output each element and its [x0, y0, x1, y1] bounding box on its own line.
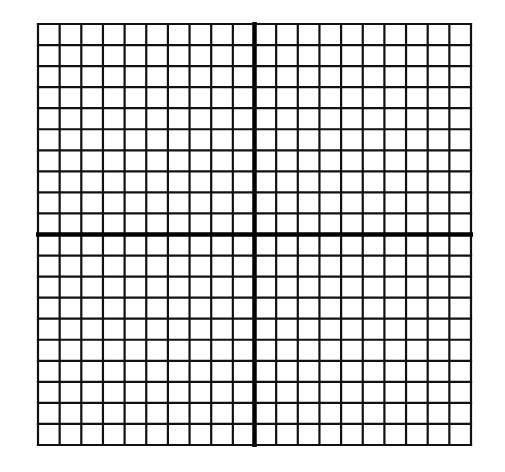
grid-graphic [36, 22, 473, 447]
coordinate-grid [36, 22, 473, 447]
